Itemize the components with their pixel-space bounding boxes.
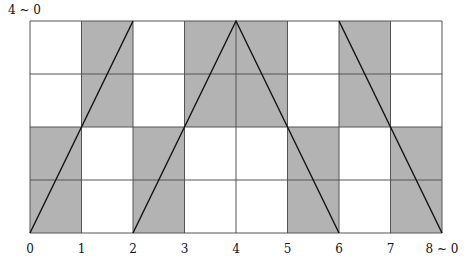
grid-diagram: [0, 0, 471, 268]
x-label: 8 ~ 0: [426, 242, 459, 256]
shaded-cell: [82, 74, 134, 127]
shaded-cell: [133, 180, 185, 233]
shaded-cell: [339, 74, 391, 127]
shaded-cell: [288, 180, 340, 233]
shaded-cell: [339, 21, 391, 74]
x-label: 1: [78, 242, 86, 256]
shaded-cell: [391, 127, 443, 180]
shaded-cell: [82, 21, 134, 74]
x-label: 2: [129, 242, 137, 256]
shaded-cell: [391, 180, 443, 233]
shaded-cell: [236, 21, 288, 74]
shaded-cell: [30, 127, 82, 180]
x-label: 5: [284, 242, 292, 256]
x-label: 7: [387, 242, 395, 256]
x-label: 3: [181, 242, 189, 256]
x-label: 6: [335, 242, 343, 256]
shaded-cell: [288, 127, 340, 180]
shaded-cell: [236, 74, 288, 127]
shaded-cell: [185, 21, 237, 74]
shaded-cell: [30, 180, 82, 233]
shaded-cell: [185, 74, 237, 127]
x-label: 4: [232, 242, 240, 256]
x-label: 0: [26, 242, 34, 256]
shaded-cell: [133, 127, 185, 180]
